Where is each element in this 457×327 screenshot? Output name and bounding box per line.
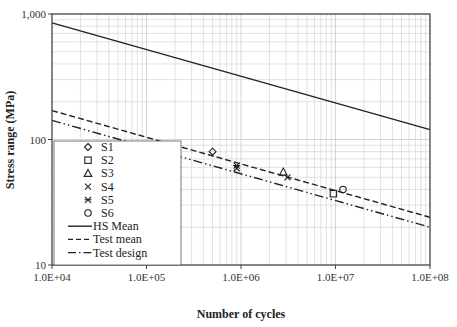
legend: S1S2S3S4S5S6HS MeanTest meanTest design bbox=[54, 140, 181, 265]
x-tick-label: 1.0E+08 bbox=[411, 271, 449, 283]
x-tick-label: 1.0E+04 bbox=[33, 271, 71, 283]
x-axis-title: Number of cycles bbox=[197, 307, 286, 321]
y-tick-label: 100 bbox=[30, 134, 47, 146]
x-tick-label: 1.0E+07 bbox=[317, 271, 355, 283]
legend-label: S6 bbox=[101, 206, 114, 220]
x-tick-label: 1.0E+05 bbox=[128, 271, 166, 283]
legend-label: S4 bbox=[101, 180, 114, 194]
x-tick-label: 1.0E+06 bbox=[222, 271, 260, 283]
legend-label: Test mean bbox=[93, 232, 142, 246]
legend-label: S5 bbox=[101, 193, 114, 207]
legend-label: S1 bbox=[101, 140, 114, 154]
legend-label: Test design bbox=[93, 246, 147, 260]
legend-label: HS Mean bbox=[93, 219, 139, 233]
y-axis-title: Stress range (MPa) bbox=[3, 91, 17, 189]
legend-label: S2 bbox=[101, 153, 114, 167]
sn-chart: 1.0E+041.0E+051.0E+061.0E+071.0E+0810100… bbox=[0, 0, 457, 327]
legend-label: S3 bbox=[101, 166, 114, 180]
y-tick-label: 1,000 bbox=[21, 8, 46, 20]
y-tick-label: 10 bbox=[35, 259, 47, 271]
